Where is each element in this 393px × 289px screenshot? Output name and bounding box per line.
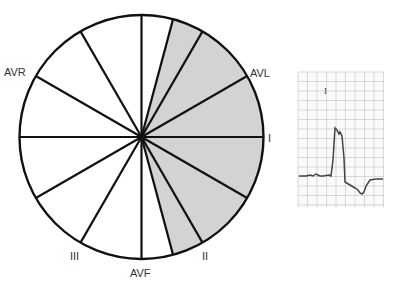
- label-avl: AVL: [250, 67, 270, 79]
- label-iii: III: [70, 250, 79, 262]
- center-dot: [139, 134, 145, 140]
- label-ii: II: [202, 250, 208, 262]
- hexaxial-diagram: I: [0, 0, 393, 289]
- label-avf: AVF: [130, 267, 151, 279]
- ecg-strip: I: [298, 72, 384, 207]
- ecg-lead-label: I: [324, 86, 327, 96]
- label-i: I: [268, 132, 271, 144]
- label-avr: AVR: [4, 66, 26, 78]
